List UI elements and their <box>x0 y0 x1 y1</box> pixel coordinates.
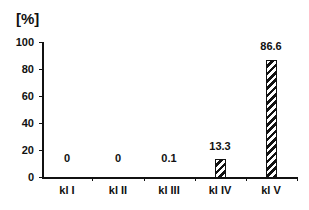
bar-kl-iv <box>215 159 226 178</box>
value-label: 86.6 <box>246 40 296 52</box>
value-label: 0.1 <box>144 152 194 164</box>
x-tick <box>92 177 93 181</box>
x-tick-label: kl IV <box>195 184 245 196</box>
value-label: 13.3 <box>195 140 245 152</box>
x-tick <box>297 177 298 181</box>
y-tick-label: 100 <box>6 36 34 48</box>
bar-kl-v <box>266 60 277 178</box>
x-tick <box>195 177 196 181</box>
y-tick <box>39 177 42 178</box>
y-axis-unit-label: [%] <box>16 10 39 27</box>
y-tick-label: 80 <box>6 63 34 75</box>
value-label: 0 <box>93 152 143 164</box>
x-tick-label: kl V <box>246 184 296 196</box>
x-tick-label: kl III <box>144 184 194 196</box>
y-tick <box>39 123 42 124</box>
x-tick <box>144 177 145 181</box>
y-tick-label: 0 <box>6 171 34 183</box>
x-tick <box>246 177 247 181</box>
y-tick <box>39 42 42 43</box>
y-tick-label: 20 <box>6 144 34 156</box>
x-axis-line <box>42 177 298 179</box>
y-tick-label: 40 <box>6 117 34 129</box>
y-tick <box>39 96 42 97</box>
y-tick <box>39 69 42 70</box>
x-tick-label: kl II <box>93 184 143 196</box>
y-tick-label: 60 <box>6 90 34 102</box>
x-tick-label: kl I <box>42 184 92 196</box>
value-label: 0 <box>42 152 92 164</box>
